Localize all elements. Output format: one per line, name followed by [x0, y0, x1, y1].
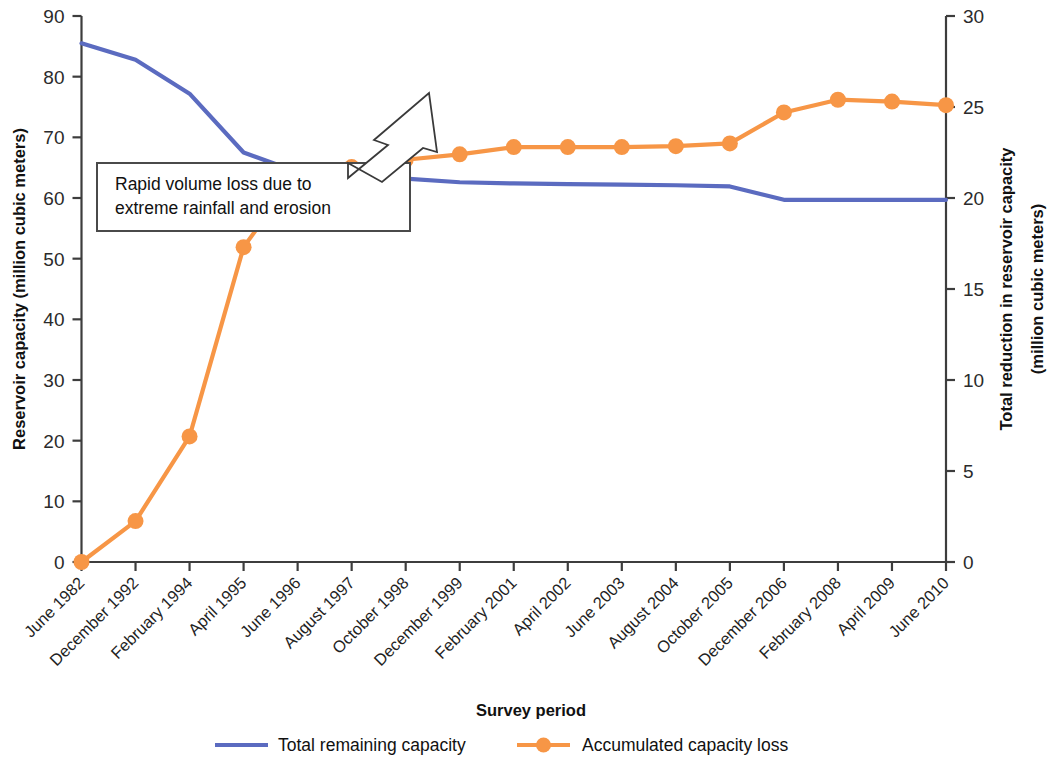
right-tick-label: 20	[963, 188, 984, 209]
left-tick-label: 40	[43, 309, 64, 330]
right-axis-ticks: 051015202530	[946, 6, 984, 573]
callout-line-1: Rapid volume loss due to	[115, 174, 312, 194]
y-axis-title: Reservoir capacity (million cubic meters…	[10, 128, 28, 450]
data-point-marker	[128, 513, 144, 529]
data-point-marker	[776, 104, 792, 120]
data-point-marker	[182, 428, 198, 444]
data-point-marker	[884, 94, 900, 110]
data-point-marker	[506, 139, 522, 155]
right-tick-label: 15	[963, 279, 984, 300]
left-tick-label: 10	[43, 491, 64, 512]
right-tick-label: 25	[963, 97, 984, 118]
legend-label-total-remaining-capacity: Total remaining capacity	[278, 735, 466, 755]
left-tick-label: 90	[43, 6, 64, 27]
legend-marker-accumulated-capacity-loss	[536, 738, 551, 753]
x-axis-title: Survey period	[476, 701, 586, 719]
data-point-marker	[560, 139, 576, 155]
right-tick-label: 10	[963, 370, 984, 391]
data-point-marker	[614, 139, 630, 155]
left-tick-label: 70	[43, 127, 64, 148]
data-point-marker	[938, 97, 954, 113]
left-tick-label: 0	[54, 552, 65, 573]
rapid-loss-callout: Rapid volume loss due to extreme rainfal…	[97, 93, 437, 231]
data-point-marker	[668, 138, 684, 154]
x-axis-ticks	[82, 562, 947, 571]
y2-axis-title-line2: (million cubic meters)	[1028, 204, 1046, 375]
left-tick-label: 50	[43, 249, 64, 270]
data-point-marker	[236, 239, 252, 255]
data-point-marker	[74, 554, 90, 570]
legend-label-accumulated-capacity-loss: Accumulated capacity loss	[582, 735, 788, 755]
right-tick-label: 0	[963, 552, 974, 573]
callout-arrow-icon	[348, 93, 437, 182]
data-series-group	[74, 43, 955, 570]
data-point-marker	[722, 135, 738, 151]
data-point-marker	[830, 92, 846, 108]
chart-container: 0102030405060708090 051015202530 June 19…	[0, 0, 1061, 764]
x-axis-category-labels: June 1982December 1992February 1994April…	[20, 573, 952, 669]
right-tick-label: 30	[963, 6, 984, 27]
left-tick-label: 80	[43, 67, 64, 88]
left-tick-label: 20	[43, 431, 64, 452]
axes-group	[82, 16, 947, 562]
right-tick-label: 5	[963, 461, 974, 482]
left-tick-label: 60	[43, 188, 64, 209]
left-axis-ticks: 0102030405060708090	[43, 6, 81, 573]
y2-axis-title-line1: Total reduction in reservoir capacity	[997, 147, 1015, 431]
callout-line-2: extreme rainfall and erosion	[115, 198, 331, 218]
left-tick-label: 30	[43, 370, 64, 391]
line-chart: 0102030405060708090 051015202530 June 19…	[0, 0, 1061, 764]
data-point-marker	[452, 146, 468, 162]
legend: Total remaining capacity Accumulated cap…	[215, 735, 788, 755]
